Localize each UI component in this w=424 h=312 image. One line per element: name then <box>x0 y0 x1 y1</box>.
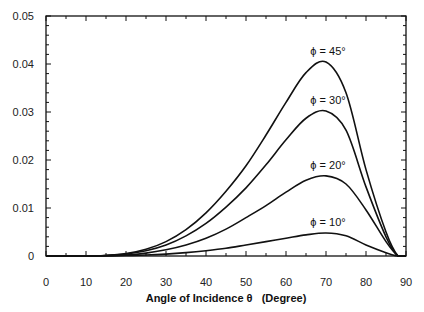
y-tick-label: 0.01 <box>13 202 34 214</box>
curve <box>46 233 406 256</box>
x-tick-label: 0 <box>43 276 49 288</box>
y-tick-label: 0.03 <box>13 106 34 118</box>
x-tick-label: 20 <box>120 276 132 288</box>
x-tick-labels: 0102030405060708090 <box>43 276 412 288</box>
axis-ticks <box>46 16 406 256</box>
curve <box>46 111 406 256</box>
x-tick-label: 80 <box>360 276 372 288</box>
curve-label: ϕ = 20° <box>310 159 345 171</box>
y-tick-label: 0.05 <box>13 10 34 22</box>
y-tick-label: 0.02 <box>13 154 34 166</box>
curve <box>46 176 406 256</box>
curve-label: ϕ = 45° <box>310 45 345 57</box>
y-tick-label: 0 <box>28 250 34 262</box>
chart: ϕ = 45°ϕ = 30°ϕ = 20°ϕ = 10° 01020304050… <box>0 0 424 312</box>
x-tick-label: 90 <box>400 276 412 288</box>
curve-label: ϕ = 10° <box>310 216 345 228</box>
x-tick-label: 40 <box>200 276 212 288</box>
x-axis-title: Angle of Incidence θ (Degree) <box>146 292 307 304</box>
x-tick-label: 10 <box>80 276 92 288</box>
y-tick-label: 0.04 <box>13 58 34 70</box>
x-tick-label: 50 <box>240 276 252 288</box>
x-tick-label: 60 <box>280 276 292 288</box>
curve-label: ϕ = 30° <box>310 94 345 106</box>
curve <box>46 61 406 256</box>
curves <box>46 61 406 256</box>
y-tick-labels: 00.010.020.030.040.05 <box>13 10 34 262</box>
plot-frame <box>46 16 406 256</box>
x-tick-label: 70 <box>320 276 332 288</box>
x-tick-label: 30 <box>160 276 172 288</box>
curve-labels: ϕ = 45°ϕ = 30°ϕ = 20°ϕ = 10° <box>310 45 345 228</box>
